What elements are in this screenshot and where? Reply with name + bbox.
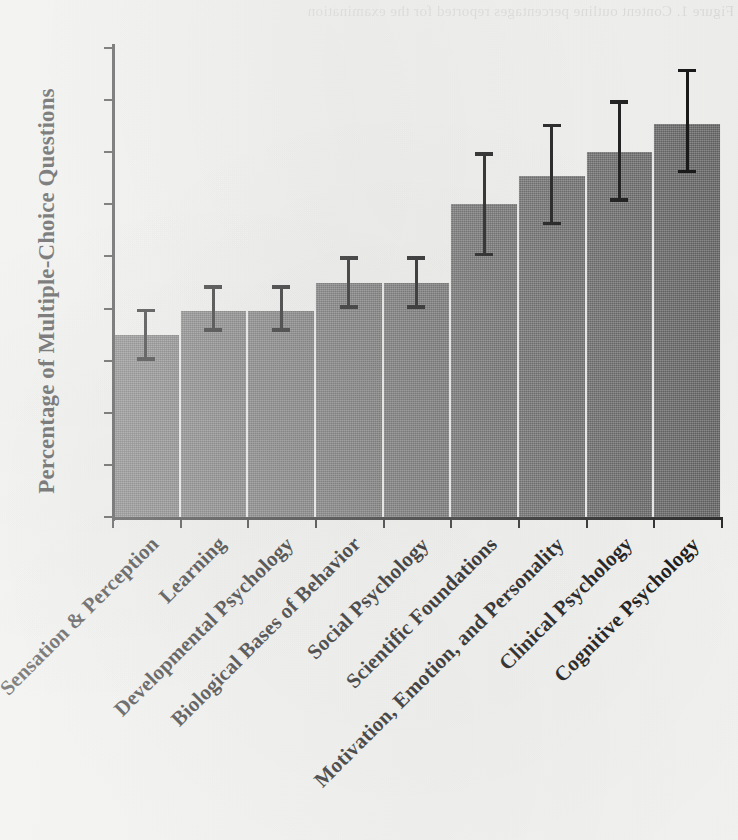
x-tick-mark [247, 518, 249, 528]
y-tick-mark [104, 203, 113, 205]
error-bar-cap-lower [475, 253, 493, 257]
x-tick-mark [180, 518, 182, 528]
error-bar [450, 152, 518, 256]
error-bar-stem [280, 285, 283, 332]
error-bar-cap-upper [678, 69, 696, 73]
x-axis-label: Motivation, Emotion, and Personality [309, 532, 569, 792]
error-bar-cap-upper [610, 100, 628, 104]
error-bar-stem [144, 309, 147, 361]
y-axis-line [112, 44, 115, 521]
bar [315, 283, 383, 518]
error-bar [247, 285, 315, 332]
y-tick-mark [104, 151, 113, 153]
error-bar-cap-upper [407, 256, 425, 260]
bar [653, 124, 721, 517]
error-bar-cap-lower [678, 170, 696, 174]
x-tick-mark [586, 518, 588, 528]
bar [383, 283, 451, 518]
bar [247, 311, 315, 517]
plot-area [112, 48, 721, 517]
error-bar-stem [550, 124, 553, 226]
x-tick-mark [518, 518, 520, 528]
y-tick-mark [104, 255, 113, 257]
error-bar-cap-lower [543, 222, 561, 226]
error-bar-stem [618, 100, 621, 202]
error-bar-cap-lower [610, 198, 628, 202]
x-axis-line [112, 517, 723, 520]
error-bar-stem [212, 285, 215, 332]
error-bar-stem [686, 69, 689, 173]
error-bar-cap-upper [475, 152, 493, 156]
y-tick-mark [104, 47, 113, 49]
x-tick-mark [721, 518, 723, 528]
error-bar [315, 256, 383, 308]
error-bar [383, 256, 451, 308]
y-tick-mark [104, 360, 113, 362]
error-bar-cap-lower [137, 357, 155, 361]
error-bar [518, 124, 586, 226]
error-bar-cap-lower [340, 305, 358, 309]
bar [180, 311, 248, 517]
x-tick-mark [653, 518, 655, 528]
error-bar-cap-upper [340, 256, 358, 260]
x-tick-mark [383, 518, 385, 528]
error-bar-stem [347, 256, 350, 308]
error-bar-stem [483, 152, 486, 256]
error-bar-cap-upper [137, 309, 155, 313]
y-tick-mark [104, 308, 113, 310]
error-bar-stem [415, 256, 418, 308]
y-axis-title: Percentage of Multiple-Choice Questions [34, 56, 60, 526]
y-tick-mark [104, 412, 113, 414]
y-tick-mark [104, 99, 113, 101]
error-bar [180, 285, 248, 332]
bar [586, 152, 654, 517]
bar [518, 176, 586, 517]
x-tick-mark [315, 518, 317, 528]
y-tick-mark [104, 464, 113, 466]
error-bar-cap-upper [543, 124, 561, 128]
error-bar [653, 69, 721, 173]
x-tick-mark [112, 518, 114, 528]
error-bar [586, 100, 654, 202]
error-bar-cap-upper [204, 285, 222, 289]
x-axis-label: Social Psychology [302, 532, 434, 664]
x-tick-mark [450, 518, 452, 528]
bar [112, 335, 180, 517]
bar-chart: Percentage of Multiple-Choice Questions … [0, 0, 738, 840]
error-bar-cap-lower [272, 328, 290, 332]
error-bar [112, 309, 180, 361]
error-bar-cap-lower [407, 305, 425, 309]
error-bar-cap-upper [272, 285, 290, 289]
error-bar-cap-lower [204, 328, 222, 332]
